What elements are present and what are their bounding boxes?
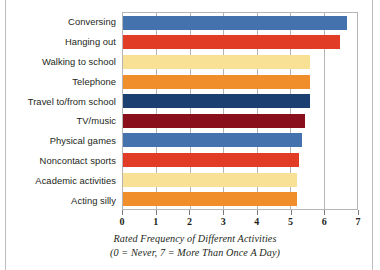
category-label-row: Hanging out: [10, 32, 120, 52]
category-label-row: Noncontact sports: [10, 151, 120, 171]
page-edge-right-rule: [372, 0, 373, 270]
bar-row: [123, 52, 357, 72]
category-label: Academic activities: [35, 175, 116, 186]
category-label-row: Conversing: [10, 12, 120, 32]
x-axis-tick: [324, 210, 325, 215]
chart-figure: ConversingHanging outWalking to schoolTe…: [0, 0, 380, 270]
bar-row: [123, 13, 357, 33]
bar-row: [123, 72, 357, 92]
bar-row: [123, 131, 357, 151]
x-axis-tick: [156, 210, 157, 215]
x-axis-tick-label: 7: [356, 216, 361, 227]
category-label-row: Telephone: [10, 71, 120, 91]
x-axis-tick: [122, 210, 123, 215]
bar-row: [123, 111, 357, 131]
x-axis-tick-label: 4: [254, 216, 259, 227]
x-axis-tick-label: 1: [153, 216, 158, 227]
plot-area: [122, 12, 358, 210]
caption-line-2: (0 = Never, 7 = More Than Once A Day): [0, 246, 380, 260]
x-axis-tick-label: 2: [187, 216, 192, 227]
axis-caption: Rated Frequency of Different Activities …: [0, 232, 380, 260]
x-axis-tick-label: 3: [221, 216, 226, 227]
page-edge-left-rule: [5, 0, 6, 270]
bar: [123, 173, 297, 187]
bar-row: [123, 91, 357, 111]
category-label: Acting silly: [71, 195, 116, 206]
bar: [123, 55, 310, 69]
bar: [123, 153, 299, 167]
caption-line-1: Rated Frequency of Different Activities: [0, 232, 380, 246]
category-label-row: TV/music: [10, 111, 120, 131]
category-label-row: Travel to/from school: [10, 91, 120, 111]
bar-row: [123, 189, 357, 209]
category-label-row: Academic activities: [10, 170, 120, 190]
x-axis: 01234567: [122, 210, 358, 232]
category-label: Walking to school: [42, 56, 116, 67]
category-label: Travel to/from school: [28, 96, 116, 107]
category-axis-labels: ConversingHanging outWalking to schoolTe…: [10, 12, 120, 210]
bar-row: [123, 170, 357, 190]
category-label: TV/music: [77, 115, 116, 126]
bar: [123, 75, 310, 89]
category-label: Conversing: [68, 16, 116, 27]
x-axis-tick-label: 6: [322, 216, 327, 227]
category-label-row: Walking to school: [10, 52, 120, 72]
x-axis-tick: [257, 210, 258, 215]
category-label: Noncontact sports: [40, 155, 116, 166]
category-label-row: Acting silly: [10, 190, 120, 210]
bar-row: [123, 150, 357, 170]
bar: [123, 16, 347, 30]
category-label-row: Physical games: [10, 131, 120, 151]
bar-series: [123, 13, 357, 209]
bar-row: [123, 33, 357, 53]
x-axis-tick: [358, 210, 359, 215]
category-label: Telephone: [72, 76, 116, 87]
x-axis-tick-label: 5: [288, 216, 293, 227]
x-axis-tick: [223, 210, 224, 215]
bar: [123, 114, 305, 128]
bar: [123, 192, 297, 206]
category-label: Hanging out: [65, 36, 116, 47]
category-label: Physical games: [50, 135, 116, 146]
x-axis-tick: [291, 210, 292, 215]
x-axis-tick: [189, 210, 190, 215]
x-axis-tick-label: 0: [120, 216, 125, 227]
bar: [123, 133, 302, 147]
bar: [123, 35, 340, 49]
bar: [123, 94, 310, 108]
